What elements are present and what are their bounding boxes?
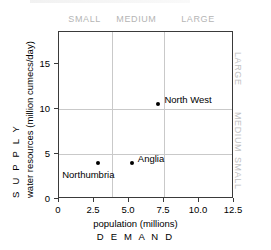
data-point-northumbria <box>96 161 100 165</box>
y-axis-title-units: water resources (million cumecs/day) <box>24 41 35 198</box>
gridline-vertical <box>164 32 165 197</box>
x-tick-label: 7.5 <box>156 204 169 215</box>
category-label-top-medium: MEDIUM <box>116 14 156 24</box>
gridline-horizontal <box>59 109 232 110</box>
x-tick-mark <box>163 198 164 202</box>
data-point-north-west <box>156 102 160 106</box>
plot-area: NorthumbriaAngliaNorth West <box>58 31 233 198</box>
category-label-right-large: LARGE <box>233 52 243 86</box>
category-label-right-small: SMALL <box>233 157 243 190</box>
x-tick-label: 5.0 <box>121 204 134 215</box>
x-tick-label: 10.0 <box>189 204 208 215</box>
category-label-right-medium: MEDIUM <box>233 112 243 152</box>
category-label-top-small: SMALL <box>68 14 101 24</box>
y-tick-label: 10 <box>39 102 50 113</box>
data-point-label-northumbria: Northumbria <box>62 170 114 180</box>
y-tick-label: 15 <box>39 57 50 68</box>
x-axis-title-demand: D E M A N D <box>0 231 271 242</box>
y-axis-title-supply: S U P P L Y <box>10 124 21 198</box>
cropped-caption-sliver <box>30 0 190 3</box>
y-tick-label: 5 <box>45 147 50 158</box>
x-axis-title-population: population (millions) <box>0 218 271 229</box>
data-point-anglia <box>130 161 134 165</box>
data-point-label-anglia: Anglia <box>138 154 164 164</box>
x-tick-label: 12.5 <box>224 204 243 215</box>
x-tick-mark <box>58 198 59 202</box>
data-point-label-north-west: North West <box>164 95 211 105</box>
category-label-top-large: LARGE <box>181 14 215 24</box>
x-tick-mark <box>128 198 129 202</box>
y-axis-title-group: S U P P L Y water resources (million cum… <box>0 31 38 198</box>
x-tick-mark <box>93 198 94 202</box>
x-tick-label: 0 <box>55 204 60 215</box>
scatter-chart: SMALLMEDIUMLARGE LARGEMEDIUMSMALL S U P … <box>0 0 271 250</box>
x-tick-mark <box>233 198 234 202</box>
y-tick-label: 0 <box>45 193 50 204</box>
x-tick-label: 2.5 <box>86 204 99 215</box>
x-tick-mark <box>198 198 199 202</box>
